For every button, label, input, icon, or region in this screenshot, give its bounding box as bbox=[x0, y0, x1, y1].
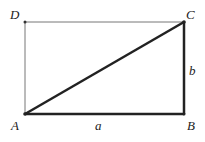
rectangle-diagram: D C A B a b bbox=[0, 0, 205, 142]
vertex-label-B: B bbox=[187, 118, 195, 133]
side-label-b: b bbox=[189, 63, 196, 78]
vertex-label-C: C bbox=[186, 7, 195, 22]
vertex-dot-B bbox=[183, 113, 186, 116]
diagonal-AC bbox=[25, 22, 184, 114]
vertex-dot-A bbox=[23, 112, 27, 116]
side-label-a: a bbox=[95, 118, 102, 133]
vertex-dot-D bbox=[24, 21, 27, 24]
vertex-label-A: A bbox=[10, 118, 19, 133]
vertex-label-D: D bbox=[9, 7, 20, 22]
